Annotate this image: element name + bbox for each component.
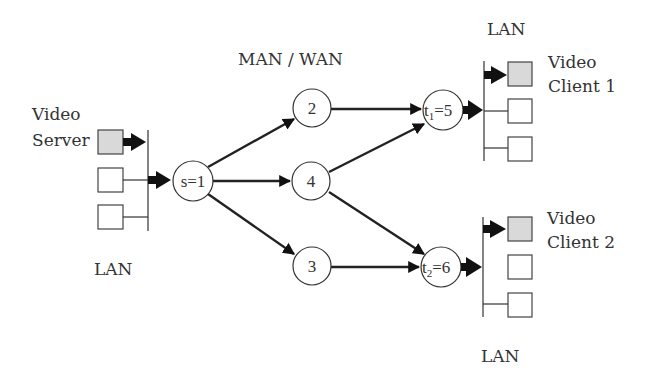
edge-s-3 [208, 194, 294, 254]
client1-lan-label: LAN [487, 19, 526, 39]
node-4-label: 4 [307, 172, 316, 191]
core-network-label: MAN / WAN [238, 49, 343, 69]
network-diagram: Video Server LAN MAN / WAN s=1 2 4 3 t1=… [0, 0, 646, 387]
video-server-host [98, 130, 123, 154]
client1-label-line2: Client 1 [548, 76, 616, 96]
server-lan-host-2 [98, 168, 123, 192]
client1-lan: LAN Video Client 1 [463, 19, 616, 161]
node-2: 2 [293, 89, 331, 127]
bus-to-source-arrow-icon [148, 171, 171, 189]
edge-s-2 [208, 119, 294, 167]
client2-lan-label: LAN [481, 346, 520, 366]
edge-4-t1 [329, 124, 424, 172]
node-3-label: 3 [308, 257, 317, 276]
t2-to-bus-arrow-icon [461, 257, 482, 277]
client2-lan-host-2 [508, 255, 532, 279]
node-s: s=1 [173, 161, 213, 201]
client1-label-line1: Video [547, 52, 597, 72]
client2-lan: Video Client 2 LAN [461, 208, 615, 366]
client2-lan-host-3 [508, 293, 532, 317]
client1-lan-host-2 [508, 99, 532, 123]
t1-to-bus-arrow-icon [463, 100, 483, 120]
server-to-bus-arrow-icon [123, 133, 146, 151]
server-label-line2: Server [32, 130, 90, 150]
node-t2: t2=6 [421, 247, 461, 287]
node-t1-label: t1=5 [424, 101, 452, 122]
bus-to-client1-arrow-icon [484, 66, 507, 84]
server-lan: Video Server LAN [31, 104, 171, 279]
node-t2-label: t2=6 [422, 258, 450, 279]
video-client-2-host [508, 217, 532, 241]
server-lan-host-3 [98, 205, 123, 229]
node-3: 3 [293, 247, 331, 285]
edge-4-t2 [329, 192, 424, 254]
video-client-1-host [508, 62, 532, 86]
client2-label-line1: Video [546, 208, 596, 228]
node-t1: t1=5 [423, 90, 463, 130]
node-s-label: s=1 [181, 172, 206, 191]
server-lan-label: LAN [94, 259, 133, 279]
client2-label-line2: Client 2 [547, 232, 615, 252]
node-2-label: 2 [308, 99, 317, 118]
server-label-line1: Video [31, 104, 81, 124]
client1-lan-host-3 [508, 137, 532, 161]
node-4: 4 [292, 162, 330, 200]
bus-to-client2-arrow-icon [483, 220, 506, 238]
